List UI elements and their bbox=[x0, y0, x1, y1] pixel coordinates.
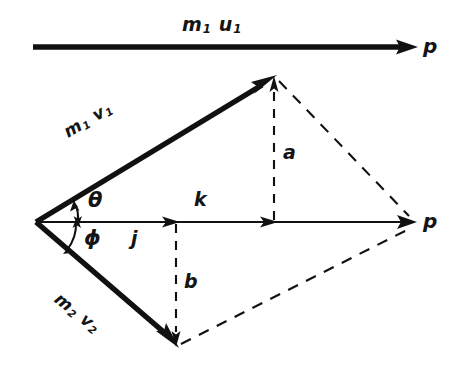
m1-u1-label-u: u bbox=[219, 13, 233, 35]
m1-u1-label-m: m bbox=[182, 13, 202, 35]
momentum-vector-diagram: m1 u1 p p m1 v1 m2 v2 θ ϕ j k a b bbox=[0, 0, 459, 379]
p-label-top: p bbox=[423, 36, 437, 56]
theta-label: θ bbox=[88, 190, 102, 211]
a-component-line bbox=[270, 76, 279, 220]
a-label: a bbox=[283, 143, 296, 162]
m2-v2-shaft bbox=[36, 222, 166, 334]
p-label-axis: p bbox=[423, 211, 437, 231]
b-component-line bbox=[172, 224, 181, 347]
phi-label: ϕ bbox=[84, 228, 101, 249]
m1-u1-label-u-sub: 1 bbox=[233, 22, 242, 36]
m1-v1-shaft bbox=[36, 85, 262, 222]
m2-v2-arrow bbox=[36, 222, 179, 348]
m1-u1-label: m1 u1 bbox=[182, 15, 242, 36]
b-label: b bbox=[184, 272, 198, 291]
m1-u1-arrow bbox=[33, 40, 418, 55]
m1-v1-arrow bbox=[36, 75, 277, 222]
k-label: k bbox=[194, 190, 207, 209]
v1-to-p-dashed-line bbox=[279, 81, 409, 216]
diagram-canvas bbox=[0, 0, 459, 379]
m1-u1-label-m-sub: 1 bbox=[202, 22, 211, 36]
v2-to-p-dashed-line bbox=[181, 229, 409, 344]
j-label: j bbox=[131, 229, 138, 248]
